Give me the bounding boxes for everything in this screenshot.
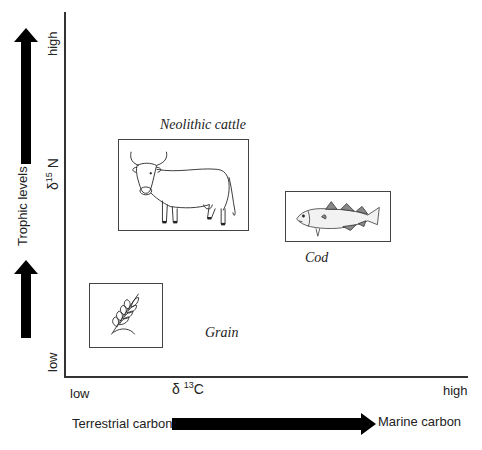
up-arrow-bottom-icon	[12, 258, 40, 340]
cod-label: Cod	[305, 250, 328, 266]
y-axis-line	[64, 12, 66, 378]
cattle-box	[118, 139, 249, 231]
y-axis-high-label: high	[45, 31, 60, 56]
cod-box	[285, 191, 391, 242]
x-axis-title: δ 13C	[172, 380, 204, 397]
marine-carbon-label: Marine carbon	[378, 414, 461, 429]
up-arrow-top-icon	[12, 26, 40, 166]
grain-label: Grain	[205, 325, 238, 341]
right-arrow-icon	[171, 413, 377, 435]
grain-box	[89, 283, 163, 348]
x-axis-high-label: high	[443, 383, 468, 398]
x-axis-low-label: low	[70, 386, 90, 401]
y-axis-low-label: low	[45, 352, 60, 372]
fish-icon	[286, 192, 390, 241]
cattle-icon	[119, 140, 248, 230]
wheat-icon	[90, 284, 162, 347]
trophic-levels-label: Trophic levels	[15, 166, 30, 246]
x-axis-line	[64, 376, 468, 378]
terrestrial-carbon-label: Terrestrial carbon	[72, 416, 172, 431]
cattle-label: Neolithic cattle	[160, 117, 246, 133]
y-axis-title: δ15 N	[44, 158, 61, 190]
